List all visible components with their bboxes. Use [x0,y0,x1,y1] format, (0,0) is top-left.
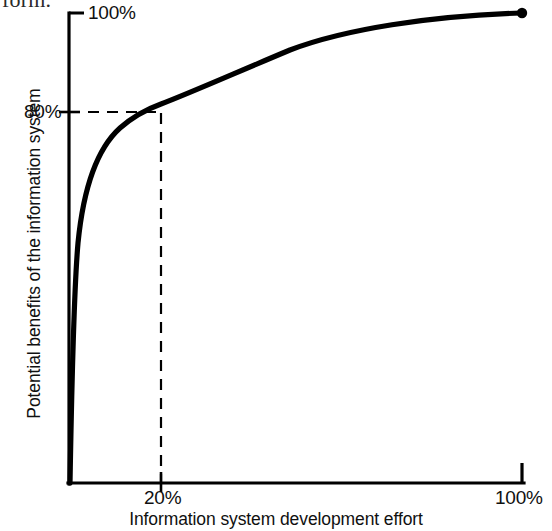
x-tick-label-100: 100% [495,487,543,509]
y-tick-label-100: 100% [88,2,136,24]
curve-endpoint-marker [517,8,527,18]
chart-figure: form. 100% 80% 20% 100% Potential benefi… [0,0,552,531]
chart-plot-area [0,0,552,531]
x-axis-title: Information system development effort [0,509,552,530]
benefit-curve [70,13,521,483]
x-tick-label-20: 20% [144,487,181,509]
y-axis-title: Potential benefits of the information sy… [24,44,45,464]
cut-off-header-text: form. [2,0,51,9]
